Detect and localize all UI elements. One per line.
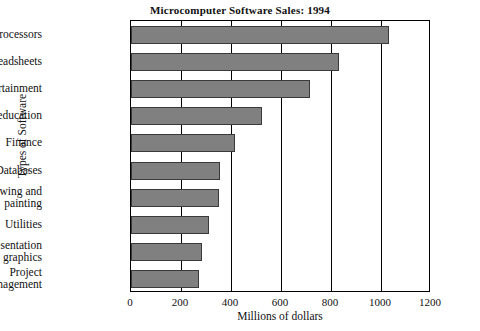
bar-row <box>131 189 431 207</box>
y-tick-label-line: Presentation <box>0 239 42 251</box>
bar <box>131 53 339 71</box>
y-tick-label: Drawing andpainting <box>0 185 42 209</box>
y-tick-label-line: Drawing and <box>0 185 42 197</box>
bar <box>131 80 310 98</box>
x-tick-label: 1000 <box>360 296 400 308</box>
bar <box>131 134 235 152</box>
bar <box>131 26 389 44</box>
y-tick-label: Entertainment <box>0 82 42 94</box>
y-tick-label-line: Utilities <box>0 218 42 230</box>
bar <box>131 107 262 125</box>
x-tick-label: 400 <box>210 296 250 308</box>
y-tick-label-line: Databases <box>0 164 42 176</box>
bar-row <box>131 162 431 180</box>
bar <box>131 162 220 180</box>
bar-row <box>131 270 431 288</box>
bar-row <box>131 216 431 234</box>
y-tick-label-line: painting <box>0 197 42 209</box>
bar-row <box>131 243 431 261</box>
y-tick-label-line: Entertainment <box>0 82 42 94</box>
y-tick-label: Spreadsheets <box>0 55 42 67</box>
x-axis-title: Millions of dollars <box>130 310 430 322</box>
chart-title: Microcomputer Software Sales: 1994 <box>0 4 480 16</box>
y-tick-label: Word processors <box>0 28 42 40</box>
x-tick-label: 800 <box>310 296 350 308</box>
plot-area <box>130 20 430 292</box>
y-tick-label: Databases <box>0 164 42 176</box>
bar-row <box>131 80 431 98</box>
bar-row <box>131 107 431 125</box>
x-tick-label: 200 <box>160 296 200 308</box>
y-tick-label: Utilities <box>0 218 42 230</box>
y-tick-label: Projectmanagement <box>0 266 42 290</box>
x-tick-label: 1200 <box>410 296 450 308</box>
y-tick-label: Home education <box>0 109 42 121</box>
bar <box>131 216 209 234</box>
y-tick-label-line: Finance <box>0 136 42 148</box>
y-tick-label: Presentationgraphics <box>0 239 42 263</box>
bar-row <box>131 134 431 152</box>
bar <box>131 189 219 207</box>
x-tick-label: 600 <box>260 296 300 308</box>
bar <box>131 270 199 288</box>
y-tick-label-line: Word processors <box>0 28 42 40</box>
y-tick-label-line: Project <box>0 266 42 278</box>
bar-row <box>131 53 431 71</box>
y-tick-label: Finance <box>0 136 42 148</box>
chart-container: Microcomputer Software Sales: 1994 Types… <box>0 0 480 331</box>
y-tick-label-line: Home education <box>0 109 42 121</box>
y-tick-label-line: graphics <box>0 251 42 263</box>
bar <box>131 243 202 261</box>
x-tick-label: 0 <box>110 296 150 308</box>
y-tick-label-line: Spreadsheets <box>0 55 42 67</box>
y-tick-label-line: management <box>0 278 42 290</box>
bar-row <box>131 26 431 44</box>
